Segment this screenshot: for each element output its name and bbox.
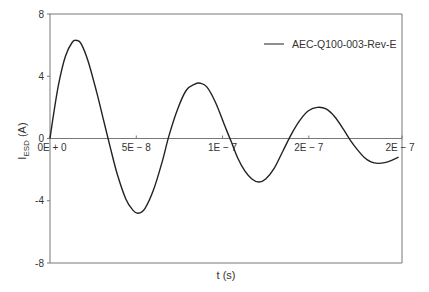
y-tick-label: 4 [38,71,44,82]
x-tick-label: 2E − 7 [385,142,415,153]
chart: 0E + 05E − 81E − 72E − 72E − 7 840-4-8 A… [0,0,429,292]
y-tick-label: -8 [35,258,44,269]
svg-text:IESD (A): IESD (A) [16,122,31,159]
y-axis-title-unit: (A) [16,122,28,140]
y-axis-title-sub: ESD [22,140,31,157]
y-tick-label: -4 [35,195,44,206]
x-tick-label: 2E − 7 [294,142,324,153]
y-tick-label: 8 [38,9,44,20]
legend: AEC-Q100-003-Rev-E [264,38,396,50]
y-tick-labels: 840-4-8 [35,9,44,269]
series-group [50,40,399,213]
x-tick-label: 5E − 8 [122,142,152,153]
x-axis-title: t (s) [217,269,236,281]
y-axis-title: IESD (A) [16,122,31,159]
y-tick-label: 0 [38,133,44,144]
legend-label: AEC-Q100-003-Rev-E [292,38,396,50]
series-line [50,40,399,213]
